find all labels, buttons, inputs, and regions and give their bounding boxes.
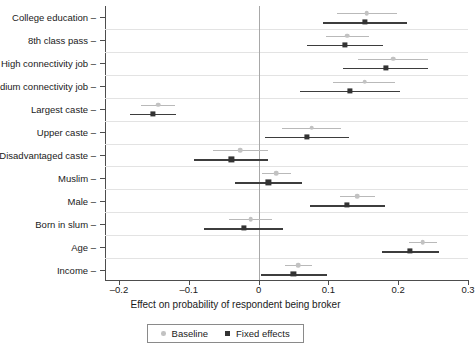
data-point-marker	[156, 102, 161, 107]
data-point-marker	[383, 65, 388, 70]
data-point-marker	[309, 125, 314, 130]
gridline	[105, 235, 468, 236]
data-point-marker	[420, 240, 425, 245]
y-axis-label: Born in slum –	[35, 218, 96, 229]
y-axis-tick	[100, 224, 105, 225]
data-point-marker	[274, 171, 279, 176]
y-axis-tick	[100, 109, 105, 110]
data-point-marker	[304, 134, 309, 139]
data-point-marker	[407, 249, 412, 254]
legend-item-baseline: Baseline	[161, 328, 208, 339]
gridline	[105, 75, 468, 76]
gridline	[105, 144, 468, 145]
data-point-marker	[343, 42, 348, 47]
x-axis-tick-label: 0.1	[322, 284, 335, 295]
gridline	[105, 189, 468, 190]
x-axis-tick-label: –0.1	[180, 284, 199, 295]
y-axis-tick	[100, 63, 105, 64]
data-point-marker	[362, 19, 367, 24]
gridline	[105, 212, 468, 213]
y-axis-label: High connectivity job –	[1, 58, 96, 69]
gridline	[105, 29, 468, 30]
x-axis-tick-label: 0.2	[392, 284, 405, 295]
data-point-marker	[291, 271, 296, 276]
y-axis-label: Muslim –	[58, 172, 96, 183]
data-point-marker	[238, 148, 243, 153]
data-point-marker	[241, 226, 246, 231]
legend-item-fixed-effects: Fixed effects	[225, 328, 290, 339]
gridline	[105, 52, 468, 53]
data-point-marker	[355, 194, 360, 199]
legend-label: Baseline	[172, 328, 208, 339]
data-point-marker	[391, 56, 396, 61]
y-axis-tick	[100, 86, 105, 87]
y-axis-tick	[100, 40, 105, 41]
x-axis-tick-label: 0	[256, 284, 261, 295]
data-point-marker	[266, 180, 271, 185]
square-marker-icon	[225, 331, 230, 336]
y-axis-label: College education –	[12, 12, 96, 23]
gridline	[105, 98, 468, 99]
data-point-marker	[345, 203, 350, 208]
y-axis-label: 8th class pass –	[28, 35, 96, 46]
y-axis-tick	[100, 17, 105, 18]
legend: Baseline Fixed effects	[147, 324, 304, 343]
y-axis-tick	[100, 201, 105, 202]
x-axis-title: Effect on probability of respondent bein…	[0, 299, 471, 310]
data-point-marker	[362, 79, 367, 84]
data-point-marker	[364, 11, 369, 16]
y-axis-tick	[100, 178, 105, 179]
gridline	[105, 166, 468, 167]
data-point-marker	[249, 217, 254, 222]
x-axis-tick-label: 0.3	[461, 284, 474, 295]
y-axis-label: Upper caste –	[37, 127, 96, 138]
data-point-marker	[347, 88, 352, 93]
zero-reference-line	[259, 6, 260, 281]
y-axis-label: Income –	[57, 264, 96, 275]
y-axis-label: Disadvantaged caste –	[0, 149, 96, 160]
y-axis-tick	[100, 270, 105, 271]
y-axis-label: Medium connectivity job –	[0, 81, 96, 92]
circle-marker-icon	[161, 331, 166, 336]
data-point-marker	[151, 111, 156, 116]
y-axis-tick	[100, 155, 105, 156]
y-axis-tick	[100, 132, 105, 133]
y-axis-label: Male –	[67, 195, 96, 206]
y-axis-tick	[100, 247, 105, 248]
x-axis-line	[105, 280, 468, 281]
gridline	[105, 121, 468, 122]
plot-area	[105, 6, 468, 281]
data-point-marker	[296, 263, 301, 268]
data-point-marker	[229, 157, 234, 162]
y-axis-labels: College education –8th class pass –High …	[0, 6, 96, 281]
gridline	[105, 258, 468, 259]
y-axis-label: Largest caste –	[31, 104, 96, 115]
legend-label: Fixed effects	[236, 328, 290, 339]
y-axis-label: Age –	[71, 241, 96, 252]
x-axis-tick-label: –0.2	[110, 284, 129, 295]
data-point-marker	[345, 34, 350, 39]
